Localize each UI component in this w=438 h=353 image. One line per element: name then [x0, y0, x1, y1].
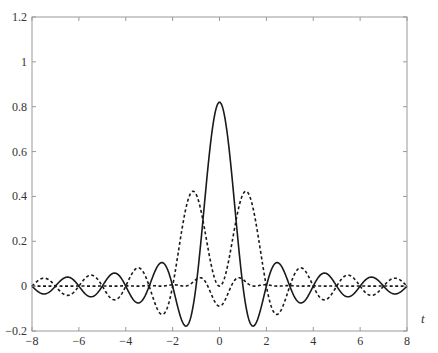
x-tick-label: 6 [357, 334, 363, 348]
x-tick-label: 8 [404, 334, 410, 348]
y-tick-label: −0.2 [5, 324, 27, 338]
line-chart: −8−6−4−202468 −0.200.20.40.60.811.2 t [0, 0, 438, 353]
y-tick-label: 0.6 [12, 145, 27, 159]
y-tick-label: 1.2 [12, 10, 27, 24]
y-tick-label: 0.4 [12, 189, 27, 203]
x-tick-label: 2 [263, 334, 269, 348]
plot-frame [32, 17, 407, 331]
x-axis-ticks: −8−6−4−202468 [26, 17, 410, 348]
y-tick-label: 0.8 [12, 100, 27, 114]
x-tick-label: −2 [166, 334, 179, 348]
y-axis-ticks: −0.200.20.40.60.811.2 [5, 10, 407, 338]
series-dashed-small [32, 278, 407, 306]
x-tick-label: −4 [119, 334, 132, 348]
x-tick-label: 4 [310, 334, 316, 348]
x-axis-label: t [421, 311, 425, 326]
plot-border [32, 17, 407, 331]
y-tick-label: 0.2 [12, 234, 27, 248]
x-tick-label: 0 [217, 334, 223, 348]
y-tick-label: 1 [21, 55, 27, 69]
curves [32, 102, 407, 326]
x-tick-label: −8 [26, 334, 39, 348]
y-tick-label: 0 [21, 279, 27, 293]
series-solid [32, 102, 407, 326]
x-tick-label: −6 [72, 334, 85, 348]
